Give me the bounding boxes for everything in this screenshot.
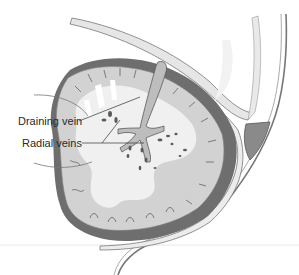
falx-band (248, 16, 261, 120)
transverse-sinus (244, 122, 270, 160)
label-radial-veins: Radial veins (22, 137, 82, 149)
label-draining-vein: Draining vein (18, 115, 82, 127)
